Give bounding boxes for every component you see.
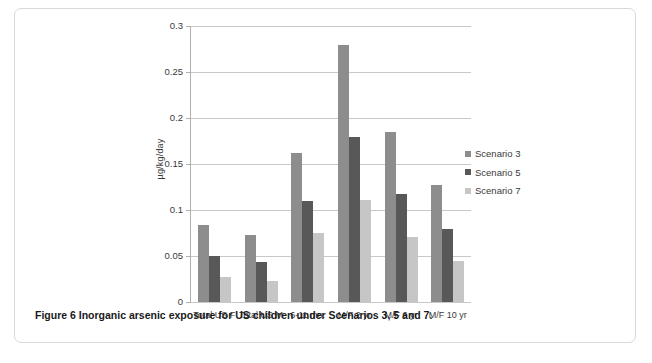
bar-groups: Total US FTotal US M6-11 mo.M/F 2 yrM/F … [191, 26, 471, 302]
bar[interactable] [291, 153, 302, 302]
figure-caption: Figure 6 Inorganic arsenic exposure for … [35, 309, 615, 323]
bar-group: 6-11 mo. [284, 26, 331, 302]
bar[interactable] [385, 132, 396, 302]
y-tick-label: 0.05 [165, 251, 184, 261]
bar[interactable] [360, 200, 371, 302]
y-tick-label: 0.3 [170, 21, 183, 31]
bar-group: M/F 6 yr [378, 26, 425, 302]
bar-group: M/F 2 yr [331, 26, 378, 302]
bar[interactable] [396, 194, 407, 302]
legend-item[interactable]: Scenario 7 [465, 186, 520, 196]
bar[interactable] [407, 237, 418, 302]
y-tick-label: 0.15 [165, 159, 184, 169]
bar[interactable] [256, 262, 267, 302]
y-tick-label: 0.2 [170, 113, 183, 123]
legend-swatch-icon [465, 169, 471, 175]
bar[interactable] [442, 229, 453, 302]
y-tick-label: 0.25 [165, 67, 184, 77]
y-tick-label: 0 [178, 297, 183, 307]
legend-label: Scenario 3 [475, 149, 520, 159]
chart-legend: Scenario 3Scenario 5Scenario 7 [465, 149, 520, 196]
legend-item[interactable]: Scenario 5 [465, 168, 520, 178]
bar[interactable] [220, 277, 231, 302]
bar[interactable] [198, 225, 209, 302]
legend-swatch-icon [465, 151, 471, 157]
caption-text: Inorganic arsenic exposure for US childr… [79, 309, 433, 321]
bar[interactable] [349, 137, 360, 302]
y-tick-mark [186, 302, 191, 303]
bar[interactable] [453, 261, 464, 302]
plot-area: 00.050.10.150.20.250.3 Total US FTotal U… [191, 26, 471, 302]
legend-item[interactable]: Scenario 3 [465, 149, 520, 159]
gridline [191, 302, 471, 303]
bar[interactable] [209, 256, 220, 302]
y-axis-title: µg/kg/day [155, 138, 165, 179]
bar-group: Total US M [238, 26, 285, 302]
caption-label: Figure 6 [35, 309, 76, 321]
bar[interactable] [431, 185, 442, 302]
bar[interactable] [338, 45, 349, 302]
legend-label: Scenario 5 [475, 168, 520, 178]
bar[interactable] [302, 201, 313, 302]
figure-root: µg/kg/day 00.050.10.150.20.250.3 Total U… [0, 0, 652, 363]
legend-swatch-icon [465, 188, 471, 194]
legend-label: Scenario 7 [475, 186, 520, 196]
bar[interactable] [313, 233, 324, 302]
y-tick-label: 0.1 [170, 205, 183, 215]
bar[interactable] [245, 235, 256, 302]
chart-area: µg/kg/day 00.050.10.150.20.250.3 Total U… [15, 9, 637, 309]
bar-group: Total US F [191, 26, 238, 302]
bar[interactable] [267, 281, 278, 302]
figure-frame: µg/kg/day 00.050.10.150.20.250.3 Total U… [14, 8, 636, 343]
